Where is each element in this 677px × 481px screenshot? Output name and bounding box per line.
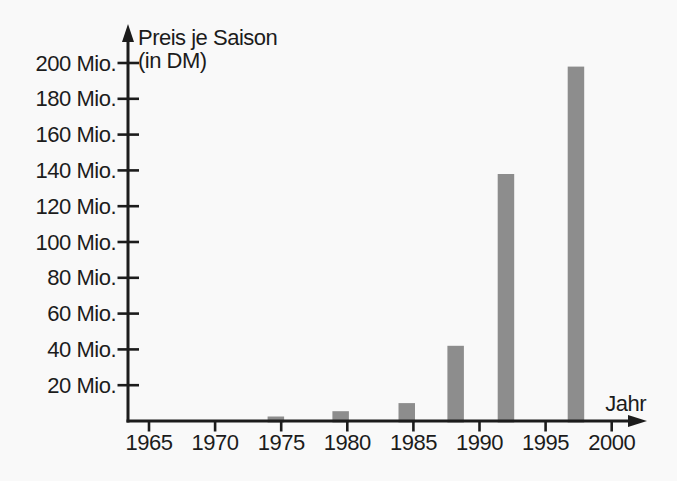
x-tick-label-1980: 1980	[324, 430, 371, 455]
scanned-chart-page: 20 Mio.40 Mio.60 Mio.80 Mio.100 Mio.120 …	[0, 0, 677, 481]
y-tick-label-100: 100 Mio.	[36, 230, 116, 255]
x-tick-label-1970: 1970	[192, 430, 239, 455]
x-tick-label-1975: 1975	[258, 430, 305, 455]
y-tick-label-200: 200 Mio.	[36, 51, 116, 76]
bar-1997	[568, 67, 585, 423]
y-axis-title-line1: Preis je Saison	[138, 26, 277, 49]
y-axis-title: Preis je Saison (in DM)	[138, 26, 277, 72]
y-tick-label-140: 140 Mio.	[36, 158, 116, 183]
x-tick-label-1965: 1965	[126, 430, 173, 455]
x-tick-label-2000: 2000	[588, 430, 635, 455]
y-tick-label-180: 180 Mio.	[36, 86, 116, 111]
x-tick-label-1985: 1985	[390, 430, 437, 455]
x-tick-label-1990: 1990	[456, 430, 503, 455]
y-tick-label-40: 40 Mio.	[47, 337, 116, 362]
x-axis-label: Jahr	[560, 391, 646, 417]
y-tick-label-60: 60 Mio.	[47, 301, 116, 326]
x-tick-label-1995: 1995	[522, 430, 569, 455]
y-tick-label-20: 20 Mio.	[47, 373, 116, 398]
bar-1992	[498, 174, 515, 423]
y-axis-arrow-icon	[122, 24, 134, 42]
bar-1988	[447, 346, 464, 423]
y-tick-label-120: 120 Mio.	[36, 194, 116, 219]
y-tick-label-80: 80 Mio.	[47, 265, 116, 290]
y-tick-label-160: 160 Mio.	[36, 122, 116, 147]
y-axis-title-line2: (in DM)	[138, 49, 277, 72]
